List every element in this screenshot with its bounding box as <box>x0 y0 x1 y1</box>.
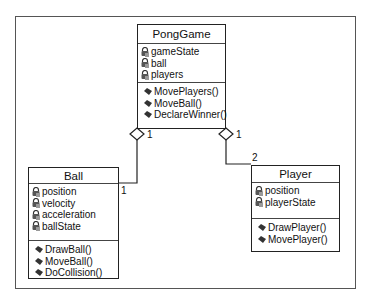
attribute-item: ball <box>140 58 225 70</box>
attribute-item: velocity <box>31 198 118 210</box>
attribute-item: playerState <box>254 197 339 209</box>
method-item: DrawBall() <box>35 244 118 256</box>
attribute-item: players <box>140 69 225 81</box>
method-diamond-icon <box>35 246 43 253</box>
class-player[interactable]: Player position playerState DrawPlayer()… <box>251 165 340 252</box>
attribute-name: players <box>151 69 183 81</box>
method-name: DrawBall() <box>45 244 92 256</box>
private-field-lock-icon <box>31 187 41 197</box>
method-diamond-icon <box>35 258 43 265</box>
private-field-lock-icon <box>31 198 41 208</box>
attribute-name: playerState <box>265 197 316 209</box>
private-field-lock-icon <box>140 47 150 57</box>
method-item: DrawPlayer() <box>258 222 339 234</box>
attribute-list: position velocity acceleration ballState <box>29 184 118 241</box>
method-item: DoCollision() <box>35 267 118 279</box>
method-list: MovePlayers() MoveBall() DeclareWinner() <box>138 83 225 121</box>
class-title: Ball <box>29 168 118 184</box>
attribute-name: ball <box>151 58 167 70</box>
method-item: DeclareWinner() <box>144 109 225 121</box>
private-field-lock-icon <box>140 58 150 68</box>
method-name: DeclareWinner() <box>154 109 227 121</box>
attribute-name: ballState <box>42 221 81 233</box>
private-field-lock-icon <box>254 186 264 196</box>
method-list: DrawPlayer() MovePlayer() <box>252 219 339 245</box>
method-diamond-icon <box>258 224 266 231</box>
class-ball[interactable]: Ball position velocity acceleration ball… <box>28 167 119 279</box>
aggregation-diamond-ball <box>130 128 144 140</box>
method-item: MoveBall() <box>144 98 225 110</box>
method-name: DrawPlayer() <box>268 222 326 234</box>
attribute-name: gameState <box>151 46 199 58</box>
multiplicity-ponggame-ball-source: 1 <box>147 129 153 140</box>
method-item: MovePlayer() <box>258 234 339 246</box>
multiplicity-ponggame-player-target: 2 <box>252 152 258 163</box>
attribute-name: acceleration <box>42 209 96 221</box>
method-item: MoveBall() <box>35 256 118 268</box>
attribute-item: acceleration <box>31 209 118 221</box>
connector-ponggame-player <box>226 140 251 164</box>
multiplicity-ponggame-ball-target: 1 <box>121 185 127 196</box>
method-diamond-icon <box>144 111 152 118</box>
method-name: MovePlayer() <box>268 234 327 246</box>
class-title: Player <box>252 166 339 183</box>
method-name: MovePlayers() <box>154 86 218 98</box>
method-item: MovePlayers() <box>144 86 225 98</box>
multiplicity-ponggame-player-source: 1 <box>236 129 242 140</box>
method-diamond-icon <box>144 100 152 107</box>
attribute-list: position playerState <box>252 183 339 219</box>
attribute-list: gameState ball players <box>138 44 225 83</box>
private-field-lock-icon <box>254 197 264 207</box>
class-ponggame[interactable]: PongGame gameState ball players MovePlay… <box>137 24 226 129</box>
method-diamond-icon <box>144 88 152 95</box>
private-field-lock-icon <box>31 210 41 220</box>
attribute-item: position <box>254 185 339 197</box>
method-diamond-icon <box>35 269 43 276</box>
method-name: MoveBall() <box>154 98 202 110</box>
aggregation-diamond-player <box>219 128 233 140</box>
attribute-item: gameState <box>140 46 225 58</box>
connector-ponggame-ball <box>118 140 137 183</box>
attribute-name: position <box>265 185 299 197</box>
method-list: DrawBall() MoveBall() DoCollision() <box>29 241 118 279</box>
private-field-lock-icon <box>31 221 41 231</box>
attribute-item: position <box>31 186 118 198</box>
method-name: DoCollision() <box>45 267 102 279</box>
method-diamond-icon <box>258 236 266 243</box>
attribute-item: ballState <box>31 221 118 233</box>
attribute-name: position <box>42 186 76 198</box>
class-title: PongGame <box>138 25 225 44</box>
attribute-name: velocity <box>42 198 75 210</box>
private-field-lock-icon <box>140 70 150 80</box>
method-name: MoveBall() <box>45 256 93 268</box>
